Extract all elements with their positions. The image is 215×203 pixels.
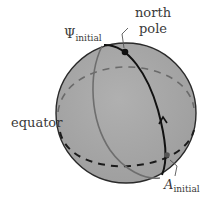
- bloch-sphere-diagram: Ψinitial north pole equator Ainitial: [0, 0, 215, 203]
- equator-label: equator: [11, 116, 62, 129]
- a-subscript: initial: [173, 184, 199, 194]
- sphere-drawing: [0, 0, 215, 203]
- north-pole-dot: [122, 49, 129, 56]
- psi-symbol: Ψ: [64, 26, 75, 41]
- a-initial-label: Ainitial: [164, 178, 200, 193]
- north-pole-line2: pole: [135, 22, 171, 35]
- a-symbol: A: [164, 177, 173, 192]
- a-initial-dot: [164, 152, 170, 158]
- north-pole-line1: north: [135, 6, 171, 19]
- psi-subscript: initial: [75, 33, 101, 43]
- psi-initial-label: Ψinitial: [64, 27, 102, 42]
- north-pole-label: north pole: [135, 6, 171, 35]
- sphere: [56, 43, 196, 183]
